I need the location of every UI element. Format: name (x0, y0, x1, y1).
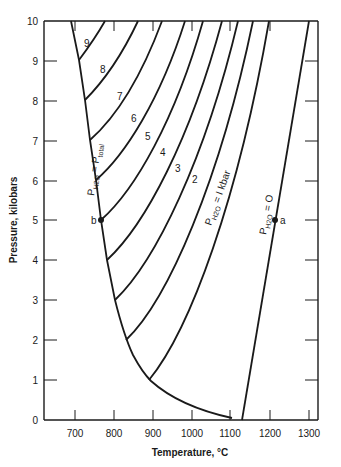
svg-text:1100: 1100 (219, 428, 241, 439)
svg-text:6: 6 (32, 176, 38, 187)
svg-text:1200: 1200 (259, 428, 282, 439)
svg-text:0: 0 (32, 415, 38, 426)
svg-text:b: b (91, 215, 97, 226)
contour-9 (79, 21, 105, 60)
svg-text:1000: 1000 (181, 428, 204, 439)
y-tick-labels: 0 1 2 3 4 5 6 7 8 9 10 (27, 16, 39, 426)
svg-text:8: 8 (100, 64, 106, 75)
svg-text:7: 7 (117, 91, 123, 102)
svg-text:4: 4 (32, 255, 38, 266)
svg-text:9: 9 (32, 56, 38, 67)
svg-text:6: 6 (131, 113, 137, 124)
svg-text:5: 5 (32, 215, 38, 226)
contour-curves (79, 21, 269, 380)
contour-labels: 9 8 7 6 5 4 3 2 (84, 38, 198, 185)
svg-text:4: 4 (160, 147, 166, 158)
svg-text:9: 9 (84, 38, 90, 49)
svg-text:7: 7 (32, 136, 38, 147)
svg-text:1: 1 (32, 375, 38, 386)
svg-text:3: 3 (32, 295, 38, 306)
contour-3 (115, 21, 238, 300)
contour-6 (96, 21, 185, 180)
svg-text:PH2O = Ptotal: PH2O = Ptotal (85, 142, 105, 196)
svg-text:900: 900 (145, 428, 162, 439)
svg-text:5: 5 (145, 131, 151, 142)
label-ph2o-ptotal: PH2O = Ptotal (85, 142, 105, 196)
svg-text:2: 2 (32, 335, 38, 346)
svg-text:8: 8 (32, 96, 38, 107)
svg-text:10: 10 (27, 16, 39, 27)
x-tick-labels: 700 800 900 1000 1100 1200 1300 (67, 428, 321, 439)
svg-text:700: 700 (67, 428, 84, 439)
svg-text:1300: 1300 (298, 428, 321, 439)
contour-1 (149, 21, 269, 380)
svg-text:3: 3 (175, 163, 181, 174)
x-axis-label: Temperature, °C (152, 447, 229, 458)
svg-text:800: 800 (106, 428, 123, 439)
phase-diagram-chart: 700 800 900 1000 1100 1200 1300 Temperat… (0, 0, 341, 467)
y-axis-label: Pressure, kilobars (8, 176, 19, 263)
contour-7 (90, 21, 162, 140)
svg-text:2: 2 (192, 174, 198, 185)
contour-5 (101, 21, 203, 220)
svg-text:a: a (280, 215, 286, 226)
